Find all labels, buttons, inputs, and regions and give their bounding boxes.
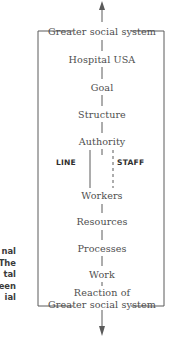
node-structure: Structure bbox=[22, 109, 176, 120]
node-reaction-of: Reaction of bbox=[22, 287, 176, 298]
node-greater-social-system-bottom: Greater social system bbox=[22, 299, 176, 310]
node-processes: Processes bbox=[22, 243, 176, 254]
system-bracket bbox=[38, 31, 164, 306]
node-resources: Resources bbox=[22, 216, 176, 227]
branch-label-staff: STAFF bbox=[117, 158, 144, 167]
side-caption-line: een bbox=[0, 281, 16, 293]
node-workers: Workers bbox=[22, 190, 176, 201]
organizational-flow-diagram: Greater social system Hospital USA Goal … bbox=[0, 0, 176, 341]
branch-label-line: LINE bbox=[56, 158, 76, 167]
node-hospital-usa: Hospital USA bbox=[22, 54, 176, 65]
node-work: Work bbox=[22, 269, 176, 280]
side-caption: nal The tal een ial bbox=[0, 246, 16, 304]
node-goal: Goal bbox=[22, 82, 176, 93]
side-caption-line: nal bbox=[0, 246, 16, 258]
node-greater-social-system-top: Greater social system bbox=[22, 26, 176, 37]
side-caption-line: tal bbox=[0, 269, 16, 281]
side-caption-line: ial bbox=[0, 292, 16, 304]
up-arrow-icon bbox=[99, 1, 105, 22]
down-arrow-icon bbox=[99, 310, 105, 336]
side-caption-line: The bbox=[0, 258, 16, 270]
node-authority: Authority bbox=[22, 136, 176, 147]
